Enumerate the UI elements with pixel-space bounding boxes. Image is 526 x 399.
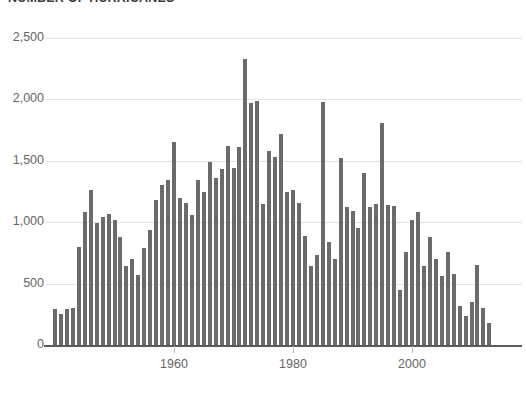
bar xyxy=(95,223,99,345)
bar xyxy=(458,306,462,345)
bar xyxy=(327,242,331,345)
bar xyxy=(398,290,402,345)
bar xyxy=(487,323,491,345)
bar xyxy=(249,103,253,345)
bar xyxy=(309,266,313,345)
bar xyxy=(345,207,349,345)
x-axis-tick-mark xyxy=(412,346,413,353)
bar xyxy=(59,314,63,345)
bar xyxy=(321,102,325,345)
bar xyxy=(273,157,277,345)
bar xyxy=(118,237,122,345)
bar xyxy=(356,228,360,345)
x-axis-tick-mark xyxy=(174,346,175,353)
bar xyxy=(71,308,75,345)
bar xyxy=(154,200,158,345)
bar xyxy=(351,211,355,345)
bar xyxy=(374,204,378,345)
bars-group xyxy=(0,0,526,399)
bar xyxy=(130,259,134,345)
x-axis-line xyxy=(44,345,522,347)
bar xyxy=(416,212,420,345)
bar xyxy=(142,248,146,345)
bar xyxy=(481,308,485,345)
bar xyxy=(226,146,230,345)
bar xyxy=(77,247,81,345)
bar xyxy=(136,275,140,345)
bar xyxy=(208,162,212,345)
bar xyxy=(184,203,188,345)
bar xyxy=(261,204,265,345)
bar xyxy=(470,302,474,345)
bar xyxy=(297,203,301,345)
bar xyxy=(386,205,390,345)
hurricanes-bar-chart: NUMBER OF HURRICANES 05001,0001,5002,000… xyxy=(0,0,526,399)
bar xyxy=(178,198,182,345)
bar xyxy=(362,173,366,345)
bar xyxy=(89,190,93,345)
bar xyxy=(279,134,283,345)
bar xyxy=(196,180,200,345)
bar xyxy=(237,147,241,345)
bar xyxy=(368,207,372,345)
bar xyxy=(113,220,117,345)
bar xyxy=(214,178,218,345)
x-axis-tick-mark xyxy=(293,346,294,353)
bar xyxy=(392,206,396,345)
bar xyxy=(124,266,128,345)
bar xyxy=(475,265,479,345)
bar xyxy=(160,185,164,345)
bar xyxy=(190,215,194,345)
bar xyxy=(315,255,319,345)
bar xyxy=(410,220,414,345)
bar xyxy=(303,236,307,345)
bar xyxy=(422,266,426,345)
x-axis-tick-label: 1980 xyxy=(271,357,315,371)
bar xyxy=(440,276,444,345)
x-axis-tick-label: 1960 xyxy=(152,357,196,371)
bar xyxy=(53,309,57,345)
bar xyxy=(172,142,176,345)
bar xyxy=(107,214,111,345)
bar xyxy=(291,190,295,345)
bar xyxy=(434,259,438,345)
bar xyxy=(166,180,170,345)
bar xyxy=(202,192,206,346)
bar xyxy=(380,123,384,345)
bar xyxy=(65,309,69,345)
plot-area: 05001,0001,5002,0002,500 196019802000 xyxy=(0,0,526,399)
bar xyxy=(452,274,456,345)
bar xyxy=(243,59,247,345)
bar xyxy=(83,212,87,345)
bar xyxy=(220,169,224,345)
bar xyxy=(464,316,468,345)
bar xyxy=(428,237,432,345)
bar xyxy=(285,192,289,346)
x-axis-tick-label: 2000 xyxy=(390,357,434,371)
bar xyxy=(333,259,337,345)
bar xyxy=(267,151,271,345)
bar xyxy=(255,101,259,345)
bar xyxy=(446,252,450,345)
bar xyxy=(232,168,236,345)
bar xyxy=(339,158,343,345)
bar xyxy=(148,230,152,345)
bar xyxy=(404,252,408,345)
bar xyxy=(101,217,105,345)
